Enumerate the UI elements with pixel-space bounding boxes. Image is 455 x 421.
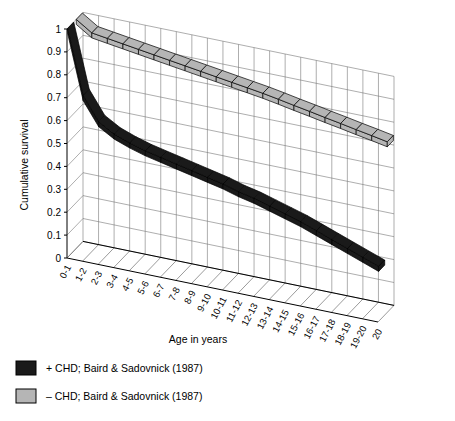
x-axis-title: Age in years: [169, 333, 227, 345]
legend-swatch-negative-chd: [16, 389, 36, 403]
y-tick-label: 1: [55, 24, 61, 35]
legend-label-negative-chd: – CHD; Baird & Sadovnick (1987): [46, 390, 202, 402]
legend-swatch-positive-chd: [16, 361, 36, 375]
y-tick-label: 0.6: [47, 115, 61, 126]
y-tick-label: 0: [55, 253, 61, 264]
y-tick-label: 0.9: [47, 46, 61, 57]
y-tick-label: 0.8: [47, 69, 61, 80]
y-tick-label: 0.3: [47, 184, 61, 195]
chart-figure: 00.10.20.30.40.50.60.70.80.91 0-11-22-33…: [0, 0, 455, 421]
y-tick-label: 0.1: [47, 230, 61, 241]
y-axis-title: Cumulative survival: [18, 119, 30, 210]
legend-label-positive-chd: + CHD; Baird & Sadovnick (1987): [46, 362, 203, 374]
y-tick-label: 0.2: [47, 207, 61, 218]
cumulative-survival-3d-chart: 00.10.20.30.40.50.60.70.80.91 0-11-22-33…: [0, 0, 455, 421]
y-tick-label: 0.4: [47, 161, 61, 172]
y-tick-label: 0.7: [47, 92, 61, 103]
y-tick-label: 0.5: [47, 138, 61, 149]
